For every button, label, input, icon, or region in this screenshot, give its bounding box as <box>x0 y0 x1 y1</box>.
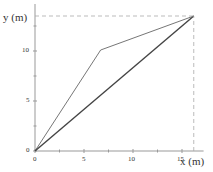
x-tick-label: 15 <box>177 155 184 163</box>
y-tick-label: 10 <box>22 46 29 54</box>
y-tick-label: 0 <box>26 146 30 154</box>
y-tick-label: 5 <box>26 96 30 104</box>
x-tick-label: 0 <box>33 155 37 163</box>
series-line-1 <box>35 16 194 151</box>
x-tick-label: 5 <box>82 155 86 163</box>
x-tick-label: 10 <box>128 155 135 163</box>
chart-root: y (m) x (m) 0510150510 <box>0 0 213 172</box>
y-axis-title: y (m) <box>3 11 27 23</box>
chart-plot <box>0 0 213 172</box>
